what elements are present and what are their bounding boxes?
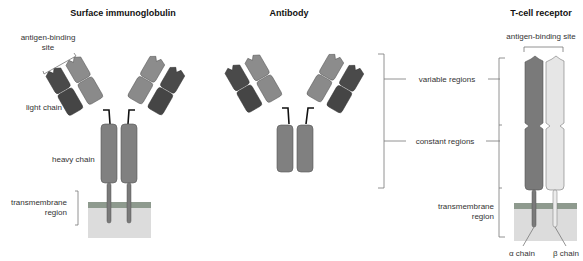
label-site: site xyxy=(42,43,55,52)
bracket-tcr-antigen-binding xyxy=(524,47,563,52)
label-heavy-chain: heavy chain xyxy=(52,155,95,164)
alpha-chain xyxy=(525,56,543,227)
label-alpha-chain: α chain xyxy=(509,249,535,258)
hinge-left xyxy=(103,110,110,124)
label-tcr-antigen-binding-site: antigen-binding site xyxy=(506,32,576,41)
bracket-right-regions xyxy=(499,58,505,237)
bracket-left-regions xyxy=(378,54,384,188)
antibody-panel: Antibody xyxy=(224,8,366,172)
beta-chain xyxy=(546,56,564,227)
label-tcr-transmembrane: transmembrane xyxy=(438,202,495,211)
bracket-transmembrane xyxy=(75,191,78,225)
ab-hinge-right xyxy=(306,108,314,124)
panel-title-tcr: T-cell receptor xyxy=(510,8,572,18)
tcr-membrane-band xyxy=(514,203,577,209)
label-constant-regions: constant regions xyxy=(416,137,475,146)
hinge-right xyxy=(128,110,135,124)
immune-receptors-diagram: Surface immunoglobulin xyxy=(0,0,583,261)
label-transmembrane: transmembrane xyxy=(11,198,68,207)
label-beta-chain: β chain xyxy=(553,249,579,258)
label-light-chain: light chain xyxy=(26,103,62,112)
tcell-receptor-panel: T-cell receptor antigen-binding site tra… xyxy=(438,8,579,258)
ab-hinge-left xyxy=(282,108,289,124)
panel-title-surface-ig: Surface immunoglobulin xyxy=(70,8,176,18)
label-tcr-region: region xyxy=(472,212,494,221)
ab-fc-left xyxy=(277,125,293,172)
heavy-chain-stem-right xyxy=(121,124,137,183)
panel-title-antibody: Antibody xyxy=(270,8,309,18)
heavy-chain-stem-left xyxy=(101,124,117,183)
label-antigen-binding: antigen-binding xyxy=(21,33,76,42)
membrane-band xyxy=(88,202,151,208)
surface-immunoglobulin-panel: Surface immunoglobulin xyxy=(11,8,186,238)
tm-tail-right xyxy=(127,183,131,223)
label-region: region xyxy=(45,208,67,217)
tm-tail-left xyxy=(107,183,111,223)
label-variable-regions: variable regions xyxy=(419,75,475,84)
ab-fc-right xyxy=(297,125,313,172)
